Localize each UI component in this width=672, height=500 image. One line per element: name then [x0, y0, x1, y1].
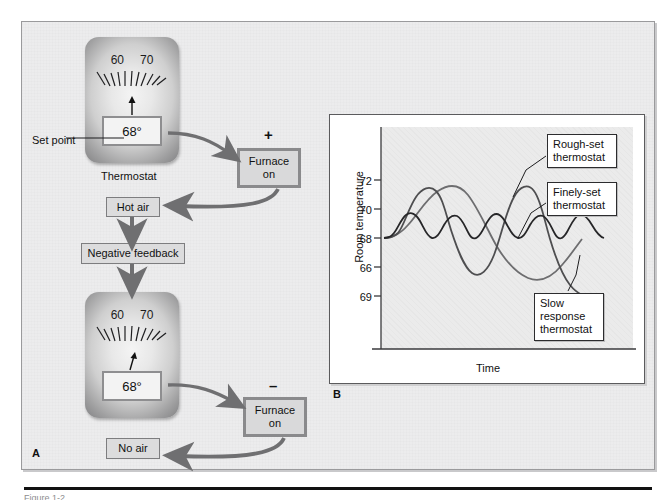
box-hot-air-label: Hot air	[117, 201, 149, 214]
box-negative-feedback: Negative feedback	[81, 243, 185, 264]
thermostat-bottom: 6070	[85, 292, 179, 418]
thermostat-bottom-setpoint-value: 68°	[122, 379, 142, 394]
box-negative-feedback-label: Negative feedback	[87, 247, 178, 260]
box-furnace-on-top-label: Furnace on	[249, 155, 289, 180]
thermostat-bottom-dial-ticks	[94, 324, 170, 346]
thermostat-top-setpoint-display: 68°	[102, 116, 162, 146]
figure-frame: 72 70 68 66 69 Room temperature Time	[21, 21, 655, 470]
box-furnace-on-top: Furnace on	[237, 148, 301, 188]
box-furnace-on-bottom-label: Furnace on	[255, 404, 295, 429]
thermostat-bottom-setpoint-display: 68°	[102, 371, 162, 401]
thermostat-top-dial-ticks	[94, 69, 170, 91]
panel-b-letter: B	[333, 388, 341, 400]
box-furnace-on-bottom: Furnace on	[243, 397, 307, 437]
curve-finely-set	[384, 213, 604, 238]
bottom-rule	[24, 487, 652, 490]
panel-b-chart: 72 70 68 66 69 Room temperature Time	[329, 114, 645, 384]
callout-slow-response: Slow response thermostat	[534, 293, 604, 341]
box-no-air: No air	[106, 438, 160, 459]
figure-page: 72 70 68 66 69 Room temperature Time	[0, 0, 672, 500]
sign-plus: +	[264, 126, 273, 143]
set-point-label: Set point	[32, 134, 75, 146]
callout-rough-set: Rough-set thermostat	[547, 134, 617, 168]
callout-finely-set: Finely-set thermostat	[547, 182, 617, 216]
dial-number-60-b: 60	[111, 308, 124, 322]
dial-number-70: 70	[140, 53, 153, 67]
thermostat-caption: Thermostat	[101, 170, 157, 182]
box-hot-air: Hot air	[106, 197, 160, 217]
bottom-caption: Figure 1-2	[24, 493, 324, 500]
dial-number-60: 60	[111, 53, 124, 67]
box-no-air-label: No air	[118, 442, 147, 455]
thermostat-top: 6070	[85, 37, 179, 163]
thermostat-bottom-pointer	[85, 350, 179, 372]
thermostat-top-pointer	[85, 95, 179, 117]
thermostat-top-dial-numbers: 6070	[85, 53, 179, 67]
thermostat-bottom-dial-numbers: 6070	[85, 308, 179, 322]
dial-number-70-b: 70	[140, 308, 153, 322]
sign-minus: –	[269, 377, 277, 394]
thermostat-top-setpoint-value: 68°	[122, 124, 142, 139]
panel-a-letter: A	[32, 447, 40, 459]
